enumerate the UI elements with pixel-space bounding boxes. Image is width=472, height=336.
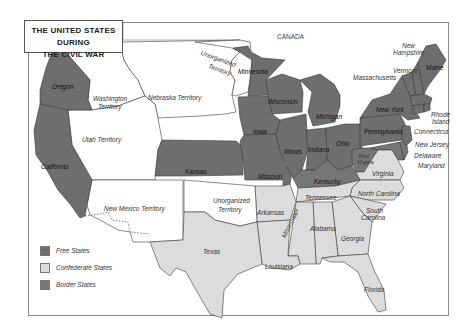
label-florida: Florida [364, 286, 384, 293]
label-nebraska-territory: Nebraska Territory [148, 94, 201, 101]
label-indiana: Indiana [308, 146, 329, 153]
label-connecticut: Connecticut [414, 128, 448, 135]
label-west-virginia-2: Virginia [357, 159, 374, 166]
label-virginia: Virginia [372, 170, 394, 177]
label-new-jersey: New Jersey [415, 141, 449, 148]
swatch-confederate [40, 263, 50, 273]
label-new-york: New York [376, 106, 404, 113]
label-maine: Maine [426, 64, 444, 71]
label-washington-territory-2: Territory [98, 103, 122, 110]
label-delaware: Delaware [414, 152, 441, 159]
label-iowa: Iowa [253, 128, 267, 135]
title-line-1: THE UNITED STATES DURING [25, 25, 122, 49]
florida [322, 254, 386, 312]
label-new-hampshire-2: Hampshire [393, 49, 424, 56]
label-new-mexico-territory: New Mexico Territory [104, 205, 165, 212]
swatch-border [40, 280, 50, 290]
title-line-2: THE CIVIL WAR [25, 49, 122, 61]
label-maryland: Maryland [418, 162, 445, 169]
swatch-free [40, 246, 50, 256]
legend-label-free: Free States [56, 247, 90, 254]
label-new-hampshire-1: New [402, 42, 415, 49]
label-washington-territory-1: Washington [93, 95, 127, 102]
label-alabama: Alabama [310, 225, 336, 232]
label-canada: CANADA [277, 33, 304, 40]
label-california: California [41, 163, 68, 170]
label-texas: Texas [203, 248, 220, 255]
label-vermont: Vermont [393, 67, 417, 74]
label-louisiana: Louisiana [265, 263, 293, 270]
legend-label-border: Border States [56, 281, 96, 288]
label-pennsylvania: Pennsylvania [364, 128, 403, 135]
label-rhode-island-1: Rhode [431, 111, 450, 118]
label-massachusetts: Massachusetts [353, 74, 396, 81]
label-north-carolina: North Carolina [358, 190, 400, 197]
label-arkansas: Arkansas [257, 209, 284, 216]
label-tennessee: Tennessee [305, 194, 337, 201]
label-ohio: Ohio [336, 140, 350, 147]
label-illinois: Illinois [284, 148, 302, 155]
label-michigan: Michigan [316, 113, 342, 120]
label-minnesota: Minnesota [238, 68, 268, 75]
legend-item-free: Free States [40, 243, 112, 258]
label-missouri: Missouri [258, 173, 282, 180]
label-georgia: Georgia [341, 235, 364, 242]
map-title: THE UNITED STATES DURING THE CIVIL WAR [24, 20, 123, 53]
legend: Free States Confederate States Border St… [40, 243, 112, 294]
rhode-island [424, 104, 430, 112]
label-unorganized-south-1: Unorganized [213, 197, 250, 204]
label-south-carolina-1: South [366, 207, 383, 214]
label-utah-territory: Utah Territory [82, 136, 121, 143]
label-oregon: Oregon [52, 83, 74, 90]
wisconsin [266, 74, 303, 114]
label-kentucky: Kentucky [314, 178, 341, 185]
legend-item-confederate: Confederate States [40, 260, 112, 275]
legend-item-border: Border States [40, 277, 112, 292]
canada-border [123, 22, 240, 40]
connecticut [412, 104, 424, 114]
label-kansas: Kansas [185, 168, 207, 175]
label-wisconsin: Wisconsin [268, 98, 298, 105]
label-rhode-island-2: Island [432, 118, 449, 125]
legend-label-confederate: Confederate States [56, 264, 112, 271]
label-south-carolina-2: Carolina [361, 214, 385, 221]
label-unorganized-south-2: Territory [218, 206, 242, 213]
